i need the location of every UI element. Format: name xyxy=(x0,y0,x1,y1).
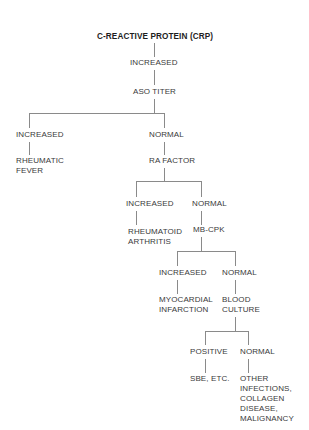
connector xyxy=(205,331,249,332)
node-rheumatic-fever: RHEUMATIC FEVER xyxy=(16,156,64,176)
connector xyxy=(177,251,236,252)
text-line: MYOCARDIAL xyxy=(159,295,213,305)
connector xyxy=(164,113,165,128)
text-line: MALIGNANCY xyxy=(240,414,294,424)
root-node-crp: C-REACTIVE PROTEIN (CRP) xyxy=(97,32,213,42)
text-line: COLLAGEN xyxy=(240,394,294,404)
connector xyxy=(248,331,249,345)
node-bc-normal: NORMAL xyxy=(240,347,275,357)
connector xyxy=(29,142,30,155)
connector xyxy=(205,331,206,345)
node-aso-increased: INCREASED xyxy=(16,130,64,140)
text-line: BLOOD xyxy=(222,295,260,305)
connector xyxy=(177,251,178,266)
connector xyxy=(201,237,202,251)
text-line: FEVER xyxy=(16,166,64,176)
node-sbe-etc: SBE, ETC. xyxy=(190,374,230,384)
text-line: RHEUMATOID xyxy=(128,227,182,237)
connector xyxy=(201,211,202,225)
node-crp-increased: INCREASED xyxy=(130,58,178,68)
connector xyxy=(136,211,137,225)
connector xyxy=(177,280,178,294)
connector xyxy=(154,43,155,57)
node-ra-factor: RA FACTOR xyxy=(149,156,195,166)
text-line: OTHER xyxy=(240,374,294,384)
text-line: DISEASE, xyxy=(240,404,294,414)
connector xyxy=(29,113,165,114)
node-mb-cpk: MB-CPK xyxy=(193,225,225,235)
text-line: INFECTIONS, xyxy=(240,384,294,394)
connector xyxy=(235,280,236,294)
connector xyxy=(164,168,165,181)
text-line: ARTHRITIS xyxy=(128,237,182,247)
connector xyxy=(164,142,165,155)
node-mb-increased: INCREASED xyxy=(159,268,207,278)
node-mb-normal: NORMAL xyxy=(222,268,257,278)
text-line: CULTURE xyxy=(222,305,260,315)
node-aso-titer: ASO TITER xyxy=(133,87,176,97)
node-ra-normal: NORMAL xyxy=(192,199,227,209)
connector xyxy=(248,359,249,373)
node-bc-positive: POSITIVE xyxy=(190,347,228,357)
node-blood-culture: BLOOD CULTURE xyxy=(222,295,260,315)
connector xyxy=(154,70,155,85)
node-aso-normal: NORMAL xyxy=(149,130,184,140)
node-other-diagnoses: OTHER INFECTIONS, COLLAGEN DISEASE, MALI… xyxy=(240,374,294,424)
text-line: RHEUMATIC xyxy=(16,156,64,166)
node-ra-increased: INCREASED xyxy=(126,199,174,209)
connector xyxy=(235,317,236,331)
connector xyxy=(136,181,202,182)
node-rheumatoid-arthritis: RHEUMATOID ARTHRITIS xyxy=(128,227,182,247)
node-myocardial-infarction: MYOCARDIAL INFARCTION xyxy=(159,295,213,315)
connector xyxy=(29,113,30,128)
connector xyxy=(205,359,206,373)
text-line: INFARCTION xyxy=(159,305,213,315)
connector xyxy=(201,181,202,197)
connector xyxy=(235,251,236,266)
connector xyxy=(136,181,137,197)
connector xyxy=(154,99,155,113)
crp-decision-tree: C-REACTIVE PROTEIN (CRP) INCREASED ASO T… xyxy=(0,0,309,430)
